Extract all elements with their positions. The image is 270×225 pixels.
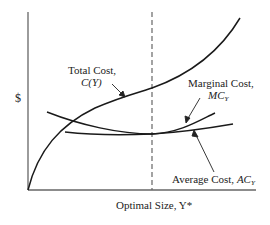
total-cost-label-symbol: C(Y) [68, 76, 116, 88]
average-cost-label: Average Cost, ACY [172, 173, 255, 189]
marginal-cost-label-symbol: MCY [188, 89, 254, 105]
total-cost-label-name: Total Cost, [68, 64, 116, 76]
cost-curves-diagram [0, 0, 270, 225]
x-axis-label: Optimal Size, Y* [116, 199, 192, 211]
y-axis-label: $ [15, 92, 21, 104]
marginal-cost-label: Marginal Cost, MCY [188, 77, 254, 105]
marginal-cost-label-name: Marginal Cost, [188, 77, 254, 89]
total-cost-label: Total Cost, C(Y) [68, 64, 116, 88]
average-cost-arrow [192, 130, 214, 172]
